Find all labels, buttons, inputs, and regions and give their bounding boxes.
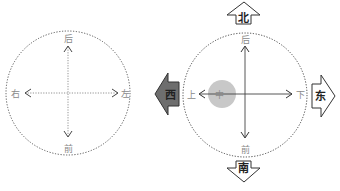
arrowhead-up-icon (64, 46, 72, 52)
left-diagram: 后 前 右 左 (6, 31, 130, 155)
label-down: 下 (296, 90, 305, 100)
arrowhead-right-icon (112, 89, 118, 97)
east-label: 东 (315, 89, 326, 103)
label-left-side: 左 (121, 88, 130, 99)
right-diagram: 后 前 上 下 中 (183, 33, 307, 157)
label-back: 后 (241, 35, 250, 45)
orientation-diagram: 后 前 右 左 后 前 上 下 中 北 南 西 东 (0, 0, 340, 191)
label-front: 前 (241, 144, 250, 155)
label-right-side: 右 (11, 88, 20, 99)
label-back: 后 (64, 34, 73, 44)
label-up: 上 (187, 90, 196, 100)
label-front: 前 (64, 143, 73, 154)
west-label: 西 (165, 89, 176, 102)
north-label: 北 (238, 11, 249, 25)
label-center: 中 (215, 89, 224, 100)
south-label: 南 (238, 161, 249, 175)
